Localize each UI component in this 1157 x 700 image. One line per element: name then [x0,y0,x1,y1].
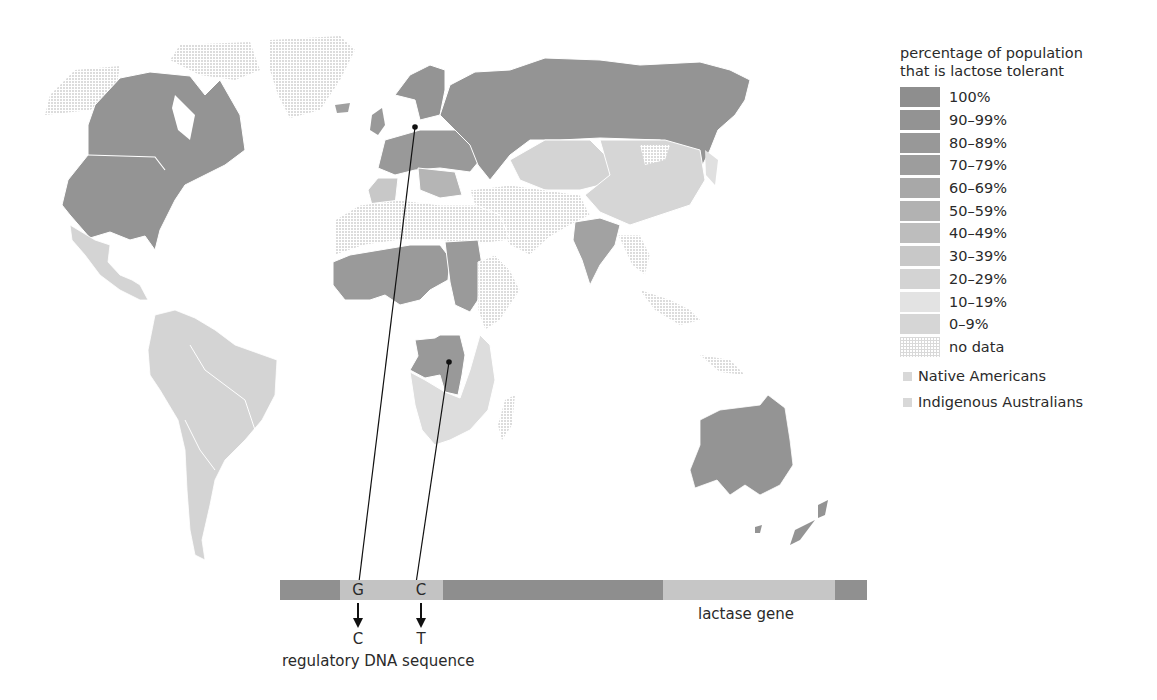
mutation-2-to: T [414,630,428,648]
legend-item: 50–59% [900,199,1150,222]
legend-swatch [900,133,940,153]
legend-item: 90–99% [900,109,1150,132]
legend-label: 90–99% [949,112,1007,128]
legend-title: percentage of population that is lactose… [900,44,1150,80]
legend-swatch [900,87,940,107]
legend-label: no data [949,339,1004,355]
legend: percentage of population that is lactose… [900,44,1150,414]
legend-swatch [900,269,940,289]
mutation-2-from: C [414,581,428,599]
legend-item: 30–39% [900,245,1150,268]
legend-item: 40–49% [900,222,1150,245]
legend-label: 100% [949,89,990,105]
legend-label: 10–19% [949,294,1007,310]
legend-swatch [900,246,940,266]
legend-label: 30–39% [949,248,1007,264]
legend-items: 100% 90–99% 80–89% 70–79% 60–69% 50–59% … [900,86,1150,358]
mutation-arrows [353,603,426,628]
legend-swatch [900,223,940,243]
legend-item: 20–29% [900,268,1150,291]
legend-swatch [900,314,940,334]
legend-item: 100% [900,86,1150,109]
legend-swatch [900,178,940,198]
legend-label: Native Americans [918,368,1046,384]
legend-title-line-2: that is lactose tolerant [900,62,1150,80]
legend-extra-native-americans: Native Americans [900,364,1150,388]
legend-item: 70–79% [900,154,1150,177]
gene-bar [280,580,867,600]
mutation-1-to: C [351,630,365,648]
west-africa [333,240,482,312]
australia [690,395,828,545]
south-america [148,310,277,560]
legend-label: 20–29% [949,271,1007,287]
legend-item: 0–9% [900,313,1150,336]
southeast-asia [618,235,745,375]
indigenous-australians-swatch [903,398,912,407]
legend-label: 80–89% [949,135,1007,151]
legend-label: 0–9% [949,316,988,332]
regulatory-dna-label: regulatory DNA sequence [282,652,474,670]
legend-label: 50–59% [949,203,1007,219]
legend-swatch [900,292,940,312]
legend-extra-indigenous-australians: Indigenous Australians [900,390,1150,414]
mutation-1-from: G [351,581,365,599]
legend-swatch [900,201,940,221]
legend-item: 80–89% [900,131,1150,154]
lactase-gene-label: lactase gene [698,605,794,623]
legend-item: no data [900,336,1150,359]
native-americans-swatch [903,372,912,381]
madagascar [498,395,515,440]
legend-label: 40–49% [949,225,1007,241]
legend-swatch [900,155,940,175]
india [573,218,620,285]
iceland [335,103,350,113]
legend-item: 60–69% [900,177,1150,200]
east-africa [478,255,520,330]
legend-label: Indigenous Australians [918,394,1083,410]
legend-label: 70–79% [949,157,1007,173]
legend-swatch [900,337,940,357]
legend-item: 10–19% [900,290,1150,313]
legend-label: 60–69% [949,180,1007,196]
legend-title-line-1: percentage of population [900,44,1150,62]
legend-swatch [900,110,940,130]
